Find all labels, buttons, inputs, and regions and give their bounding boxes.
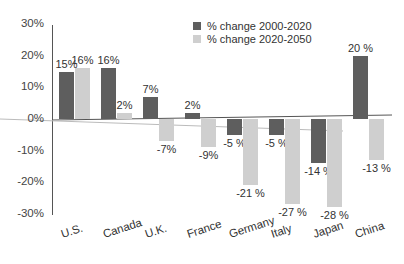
legend: % change 2000-2020 % change 2020-2050 <box>193 19 312 45</box>
bar-uk-series-0 <box>143 97 158 119</box>
y-tick-label: -20% <box>0 175 44 187</box>
y-tick-label: 10% <box>0 80 44 92</box>
bar-japan-series-0 <box>311 119 326 163</box>
bar-germany-series-1 <box>243 119 258 185</box>
bar-china-series-1 <box>369 119 384 160</box>
value-label: 16% <box>97 54 119 66</box>
value-label: 20 % <box>348 42 373 54</box>
legend-swatch-light <box>193 35 201 43</box>
bar-china-series-0 <box>353 56 368 119</box>
bar-chart: 30%20%10%0%-10%-20%-30% 15%16%16%2%7%-7%… <box>0 0 404 264</box>
legend-item-2020-2050: % change 2020-2050 <box>193 32 312 45</box>
bar-us-series-1 <box>75 68 90 119</box>
value-label: -28 % <box>320 209 349 221</box>
value-label: -21 % <box>236 187 265 199</box>
value-label: 2% <box>185 99 201 111</box>
bar-canada-series-1 <box>117 113 132 119</box>
value-label: 16% <box>71 54 93 66</box>
y-tick-label: 30% <box>0 17 44 29</box>
legend-label: % change 2020-2050 <box>207 33 312 45</box>
value-label: 7% <box>143 83 159 95</box>
y-tick-label: -10% <box>0 144 44 156</box>
y-tick-label: 0% <box>0 112 44 124</box>
value-label: -27 % <box>278 206 307 218</box>
bar-germany-series-0 <box>227 119 242 135</box>
value-label: -13 % <box>362 162 391 174</box>
value-label: -7% <box>157 143 177 155</box>
bar-canada-series-0 <box>101 68 116 119</box>
legend-label: % change 2000-2020 <box>207 20 312 32</box>
bar-france-series-1 <box>201 119 216 147</box>
bar-japan-series-1 <box>327 119 342 207</box>
value-label: 2% <box>117 99 133 111</box>
bar-us-series-0 <box>59 72 74 119</box>
bar-france-series-0 <box>185 113 200 119</box>
legend-swatch-dark <box>193 22 201 30</box>
y-tick-label: -30% <box>0 207 44 219</box>
value-label: -9% <box>199 149 219 161</box>
bar-uk-series-1 <box>159 119 174 141</box>
bar-italy-series-1 <box>285 119 300 204</box>
legend-item-2000-2020: % change 2000-2020 <box>193 19 312 32</box>
y-tick-label: 20% <box>0 49 44 61</box>
bar-italy-series-0 <box>269 119 284 135</box>
